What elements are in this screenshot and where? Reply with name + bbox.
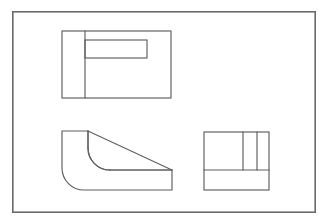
side-view: [204, 132, 269, 190]
front-view: [62, 131, 172, 190]
drawing-canvas: [0, 0, 330, 224]
front-view-outline: [62, 131, 172, 190]
front-view-chamfer-diagonal-edge: [88, 131, 172, 170]
side-view-outline: [204, 132, 269, 190]
top-view: [62, 31, 171, 98]
drawing-sheet: [0, 0, 330, 224]
top-view-outline: [62, 31, 171, 98]
